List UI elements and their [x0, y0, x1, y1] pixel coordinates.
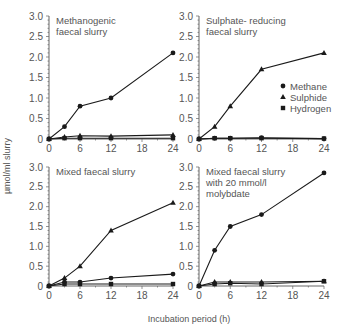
- methane-marker: [228, 224, 233, 229]
- figure: 00.51.01.52.02.53.006121824Methanogenicf…: [0, 0, 344, 332]
- panel-title: Sulphate- reducing: [206, 15, 286, 26]
- methane-marker: [78, 104, 83, 109]
- x-tick-label: 6: [227, 290, 233, 301]
- legend-label: Hydrogen: [290, 103, 331, 114]
- series-line-sulphide: [49, 203, 173, 286]
- hydrogen-marker: [197, 137, 201, 141]
- y-tick-label: 1.0: [179, 241, 193, 252]
- x-tick-label: 12: [256, 143, 268, 154]
- hydrogen-marker: [212, 136, 216, 140]
- hydrogen-marker: [228, 136, 232, 140]
- sulphide-marker: [62, 275, 68, 280]
- legend-hydrogen-marker: [281, 106, 285, 110]
- hydrogen-marker: [109, 136, 113, 140]
- y-tick-label: 1.0: [29, 93, 43, 104]
- x-axis-label: Incubation period (h): [148, 314, 231, 324]
- hydrogen-marker: [47, 137, 51, 141]
- x-tick-label: 24: [167, 290, 179, 301]
- hydrogen-marker: [62, 282, 66, 286]
- hydrogen-marker: [322, 136, 326, 140]
- panel-title: Mixed faecal slurry: [206, 166, 285, 177]
- hydrogen-marker: [62, 136, 66, 140]
- y-tick-label: 0: [187, 134, 193, 145]
- panels-group: 00.51.01.52.02.53.006121824Methanogenicf…: [29, 11, 330, 302]
- y-tick-label: 1.5: [29, 221, 43, 232]
- panel-title: molybdate: [206, 188, 250, 199]
- panel-title: Methanogenic: [56, 15, 116, 26]
- x-tick-label: 24: [167, 143, 179, 154]
- x-tick-label: 12: [105, 143, 117, 154]
- y-tick-label: 1.5: [29, 72, 43, 83]
- hydrogen-marker: [78, 282, 82, 286]
- y-tick-label: 2.5: [29, 181, 43, 192]
- hydrogen-marker: [78, 136, 82, 140]
- methane-marker: [109, 96, 114, 101]
- y-tick-label: 0: [187, 281, 193, 292]
- y-tick-label: 1.0: [29, 241, 43, 252]
- panel-3: 00.51.01.52.02.53.006121824Mixed faecal …: [29, 162, 179, 302]
- x-tick-label: 0: [196, 290, 202, 301]
- x-tick-label: 6: [77, 290, 83, 301]
- methane-marker: [171, 51, 176, 56]
- y-axis-label: µmol/ml slurry: [2, 137, 12, 194]
- legend-sulphide-marker: [280, 94, 286, 99]
- y-tick-label: 1.0: [179, 93, 193, 104]
- y-tick-label: 3.0: [29, 162, 43, 173]
- legend: MethaneSulphideHydrogen: [280, 81, 331, 114]
- methane-marker: [322, 171, 327, 176]
- y-tick-label: 0.5: [29, 261, 43, 272]
- sulphide-marker: [321, 50, 327, 55]
- hydrogen-marker: [109, 282, 113, 286]
- hydrogen-marker: [47, 284, 51, 288]
- x-tick-label: 18: [287, 143, 299, 154]
- y-tick-label: 1.5: [179, 72, 193, 83]
- y-tick-label: 1.5: [179, 221, 193, 232]
- legend-methane-marker: [281, 84, 286, 89]
- x-tick-label: 6: [227, 143, 233, 154]
- hydrogen-marker: [212, 282, 216, 286]
- sulphide-marker: [170, 200, 176, 205]
- methane-marker: [212, 248, 217, 253]
- hydrogen-marker: [322, 279, 326, 283]
- x-tick-label: 12: [105, 290, 117, 301]
- y-tick-label: 0.5: [29, 113, 43, 124]
- x-tick-label: 0: [46, 143, 52, 154]
- y-tick-label: 2.0: [29, 201, 43, 212]
- y-tick-label: 2.5: [179, 181, 193, 192]
- x-tick-label: 12: [256, 290, 268, 301]
- x-tick-label: 0: [46, 290, 52, 301]
- y-tick-label: 0.5: [179, 113, 193, 124]
- y-tick-label: 0: [37, 134, 43, 145]
- x-tick-label: 24: [318, 143, 330, 154]
- panel-title: Mixed faecal slurry: [56, 166, 135, 177]
- panel-1: 00.51.01.52.02.53.006121824Methanogenicf…: [29, 11, 179, 155]
- y-tick-label: 3.0: [179, 162, 193, 173]
- y-tick-label: 2.5: [179, 31, 193, 42]
- x-tick-label: 18: [136, 290, 148, 301]
- x-tick-label: 6: [77, 143, 83, 154]
- y-tick-label: 3.0: [29, 11, 43, 22]
- panel-4: 00.51.01.52.02.53.006121824Mixed faecal …: [179, 162, 330, 302]
- y-tick-label: 0.5: [179, 261, 193, 272]
- legend-label: Sulphide: [290, 92, 327, 103]
- hydrogen-marker: [228, 281, 232, 285]
- y-tick-label: 2.5: [29, 31, 43, 42]
- methane-marker: [62, 124, 67, 129]
- hydrogen-marker: [259, 282, 263, 286]
- y-tick-label: 2.0: [179, 201, 193, 212]
- hydrogen-marker: [197, 284, 201, 288]
- legend-label: Methane: [290, 81, 327, 92]
- x-tick-label: 0: [196, 143, 202, 154]
- y-tick-label: 0: [37, 281, 43, 292]
- panel-title: with 20 mmol/l: [205, 177, 267, 188]
- methane-marker: [171, 272, 176, 277]
- y-tick-label: 2.0: [179, 52, 193, 63]
- hydrogen-marker: [171, 136, 175, 140]
- x-tick-label: 18: [287, 290, 299, 301]
- methane-marker: [259, 212, 264, 217]
- x-tick-label: 18: [136, 143, 148, 154]
- hydrogen-marker: [259, 136, 263, 140]
- y-tick-label: 3.0: [179, 11, 193, 22]
- x-tick-label: 24: [318, 290, 330, 301]
- hydrogen-marker: [171, 282, 175, 286]
